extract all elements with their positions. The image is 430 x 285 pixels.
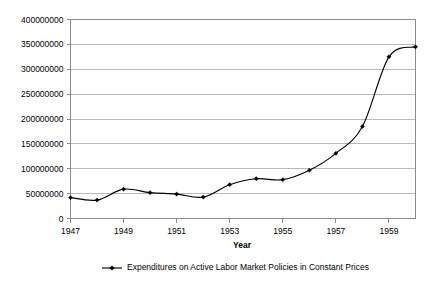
x-axis-tick-label: 1959 bbox=[380, 226, 399, 236]
chart-legend: Expenditures on Active Labor Market Poli… bbox=[102, 262, 369, 272]
series-line bbox=[71, 47, 416, 201]
data-point-marker bbox=[121, 187, 125, 191]
data-point-marker bbox=[413, 45, 417, 49]
chart-container: 0500000001000000001500000002000000002500… bbox=[0, 0, 430, 285]
y-axis-tick-label: 150000000 bbox=[21, 139, 64, 149]
data-point-marker bbox=[254, 177, 258, 181]
x-axis-tick-label: 1953 bbox=[220, 226, 239, 236]
y-axis-tick-label: 0 bbox=[59, 214, 64, 224]
data-point-marker bbox=[201, 195, 205, 199]
y-axis-tick-label: 50000000 bbox=[26, 189, 64, 199]
x-axis-title: Year bbox=[233, 240, 252, 250]
y-axis-tick-marks bbox=[67, 20, 71, 219]
y-axis-tick-label: 400000000 bbox=[21, 15, 64, 25]
legend-label: Expenditures on Active Labor Market Poli… bbox=[127, 262, 369, 272]
y-axis-tick-label: 300000000 bbox=[21, 64, 64, 74]
x-axis-tick-marks bbox=[71, 219, 389, 223]
y-axis-tick-label: 250000000 bbox=[21, 89, 64, 99]
x-axis-tick-label: 1957 bbox=[326, 226, 345, 236]
data-point-marker bbox=[68, 196, 72, 200]
data-series bbox=[68, 45, 417, 202]
x-axis-tick-label: 1947 bbox=[61, 226, 80, 236]
data-point-marker bbox=[281, 178, 285, 182]
y-axis-tick-label: 200000000 bbox=[21, 114, 64, 124]
x-axis-tick-label: 1949 bbox=[114, 226, 133, 236]
legend-marker bbox=[110, 266, 115, 271]
gridlines bbox=[71, 44, 416, 193]
x-axis-tick-labels: 1947194919511953195519571959 bbox=[61, 226, 399, 236]
data-point-marker bbox=[148, 191, 152, 195]
y-axis-tick-label: 350000000 bbox=[21, 39, 64, 49]
data-point-marker bbox=[228, 183, 232, 187]
y-axis-tick-labels: 0500000001000000001500000002000000002500… bbox=[21, 15, 64, 224]
line-chart: 0500000001000000001500000002000000002500… bbox=[0, 0, 430, 285]
data-point-marker bbox=[95, 198, 99, 202]
x-axis-tick-label: 1955 bbox=[273, 226, 292, 236]
y-axis-tick-label: 100000000 bbox=[21, 164, 64, 174]
x-axis-tick-label: 1951 bbox=[167, 226, 186, 236]
data-point-marker bbox=[175, 192, 179, 196]
